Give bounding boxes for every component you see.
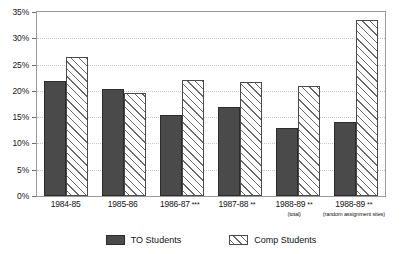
bar-comp-students	[66, 57, 88, 196]
y-axis-tick-label: 0%	[17, 192, 29, 201]
x-axis-sublabel: (random assignment sites)	[323, 210, 385, 218]
bar-groups	[37, 12, 385, 196]
y-axis: 0%5%10%15%20%25%30%35%	[0, 0, 36, 198]
bar-comp-students	[240, 82, 262, 196]
bar-group	[153, 12, 211, 196]
bar-to-students	[334, 122, 356, 196]
significance-marker: **	[248, 201, 255, 208]
x-axis-label-text: 1988-89	[276, 199, 306, 209]
bar-to-students	[276, 128, 298, 196]
bar-comp-students	[182, 80, 204, 196]
legend-label: TO Students	[131, 235, 181, 245]
bar-comp-students	[298, 86, 320, 196]
significance-marker: **	[305, 201, 312, 208]
bar-group	[211, 12, 269, 196]
x-axis-label-text: 1987-88	[218, 199, 248, 209]
y-axis-tick-label: 5%	[17, 165, 29, 174]
x-axis-label: 1988-89 **	[323, 199, 385, 210]
x-axis-label: 1984-85	[37, 199, 94, 210]
hatched-swatch	[229, 235, 248, 245]
bar-to-students	[44, 81, 66, 196]
x-axis-category: 1986-87 ***	[151, 199, 208, 233]
y-axis-tick-label: 20%	[13, 86, 29, 95]
x-axis-category: 1988-89 **(random assignment sites)	[323, 199, 385, 233]
x-axis-label-text: 1984-85	[51, 199, 81, 209]
bar-to-students	[160, 115, 182, 196]
legend-item: Comp Students	[229, 235, 316, 245]
y-axis-tick-label: 15%	[13, 113, 29, 122]
x-axis-label-text: 1986-87	[160, 199, 190, 209]
legend-label: Comp Students	[254, 235, 316, 245]
bar-group	[327, 12, 385, 196]
x-axis-label: 1987-88 **	[208, 199, 265, 210]
x-axis: 1984-851985-861986-87 ***1987-88 **1988-…	[37, 199, 385, 233]
y-axis-tick-label: 10%	[13, 139, 29, 148]
bar-group	[95, 12, 153, 196]
x-axis-category: 1984-85	[37, 199, 94, 233]
x-axis-label: 1988-89 **	[266, 199, 323, 210]
bar-to-students	[218, 107, 240, 196]
legend-item: TO Students	[106, 235, 181, 245]
y-axis-tick-label: 30%	[13, 34, 29, 43]
x-axis-label: 1986-87 ***	[151, 199, 208, 210]
x-axis-label-text: 1985-86	[108, 199, 138, 209]
x-axis-label-text: 1988-89	[335, 199, 365, 209]
y-axis-tick-label: 35%	[13, 8, 29, 17]
significance-marker: **	[365, 201, 372, 208]
x-axis-category: 1987-88 **	[208, 199, 265, 233]
chart-legend: TO StudentsComp Students	[37, 231, 385, 249]
x-axis-category: 1988-89 **(total)	[266, 199, 323, 233]
x-axis-label: 1985-86	[94, 199, 151, 210]
bar-group	[269, 12, 327, 196]
bar-comp-students	[124, 93, 146, 196]
x-axis-sublabel: (total)	[266, 210, 323, 218]
x-axis-category: 1985-86	[94, 199, 151, 233]
bar-group	[37, 12, 95, 196]
bar-chart: 0%5%10%15%20%25%30%35% 1984-851985-86198…	[0, 0, 402, 254]
bar-comp-students	[356, 20, 378, 196]
significance-marker: ***	[190, 201, 200, 208]
solid-dark-swatch	[106, 235, 125, 245]
y-axis-tick-label: 25%	[13, 60, 29, 69]
bar-to-students	[102, 89, 124, 196]
